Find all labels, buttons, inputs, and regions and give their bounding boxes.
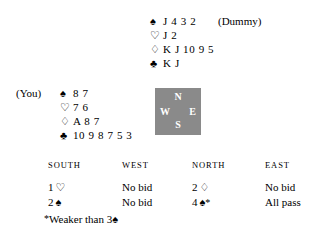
bid-west-2: No bid [122, 195, 152, 210]
you-spade-cards: 8 7 [73, 86, 89, 100]
spade-icon: ♠ [150, 14, 163, 28]
bidding-row: 2♠ No bid 4♠* All pass [0, 195, 318, 210]
bidding-header-row: SOUTH WEST NORTH EAST [0, 158, 318, 180]
club-icon: ♣ [60, 128, 73, 142]
you-suit-row-diamond: ♢ A 8 7 [60, 114, 132, 128]
compass-north: N [155, 92, 201, 102]
you-label: (You) [16, 86, 41, 100]
bid-level: 2 [192, 181, 198, 193]
bid-east-1: No bid [265, 180, 295, 195]
bid-north-1: 2♢ [192, 180, 209, 195]
bidding-header-north: NORTH [192, 158, 225, 173]
dummy-club-cards: K J [163, 56, 180, 70]
dummy-suit-row-spade: ♠ J 4 3 2 [150, 14, 214, 28]
footnote-text: Weaker than 3 [49, 213, 112, 225]
bridge-hand-diagram: (Dummy) ♠ J 4 3 2 ♡ J 2 ♢ K J 10 9 5 ♣ K… [0, 0, 318, 237]
compass-south: S [155, 120, 201, 130]
dummy-heart-cards: J 2 [163, 28, 177, 42]
you-suit-row-spade: ♠ 8 7 [60, 86, 132, 100]
bidding-header-south: SOUTH [48, 158, 81, 173]
your-hand: ♠ 8 7 ♡ 7 6 ♢ A 8 7 ♣ 10 9 8 7 5 3 [60, 86, 132, 142]
bidding-header-west: WEST [122, 158, 149, 173]
you-diamond-cards: A 8 7 [73, 114, 100, 128]
spade-icon: ♠ [54, 196, 62, 208]
bid-east-2: All pass [265, 195, 301, 210]
compass-east: E [189, 107, 196, 117]
dummy-suit-row-diamond: ♢ K J 10 9 5 [150, 42, 214, 56]
bid-level: 1 [48, 181, 54, 193]
bidding-row: 1♡ No bid 2♢ No bid [0, 180, 318, 195]
dummy-label: (Dummy) [218, 14, 261, 28]
spade-icon: ♠ [112, 213, 118, 225]
compass-box: N W E S [155, 88, 201, 135]
footnote-marker: * [205, 197, 210, 208]
bidding-table: SOUTH WEST NORTH EAST 1♡ No bid 2♢ No bi… [0, 158, 318, 210]
dummy-hand: ♠ J 4 3 2 ♡ J 2 ♢ K J 10 9 5 ♣ K J [150, 14, 214, 70]
diamond-icon: ♢ [198, 181, 210, 193]
you-suit-row-club: ♣ 10 9 8 7 5 3 [60, 128, 132, 142]
heart-icon: ♡ [60, 100, 73, 114]
club-icon: ♣ [150, 56, 163, 70]
bid-south-1: 1♡ [48, 180, 65, 195]
dummy-suit-row-club: ♣ K J [150, 56, 214, 70]
diamond-icon: ♢ [60, 114, 73, 128]
dummy-spade-cards: J 4 3 2 [163, 14, 196, 28]
bid-level: 2 [48, 196, 54, 208]
spade-icon: ♠ [60, 86, 73, 100]
bid-south-2: 2♠ [48, 195, 61, 210]
bidding-header-east: EAST [265, 158, 290, 173]
bid-north-2: 4♠* [192, 195, 210, 210]
heart-icon: ♡ [150, 28, 163, 42]
you-heart-cards: 7 6 [73, 100, 89, 114]
bid-level: 4 [192, 196, 198, 208]
footnote: *Weaker than 3♠ [44, 212, 118, 226]
dummy-diamond-cards: K J 10 9 5 [163, 42, 214, 56]
you-suit-row-heart: ♡ 7 6 [60, 100, 132, 114]
dummy-suit-row-heart: ♡ J 2 [150, 28, 214, 42]
bid-west-1: No bid [122, 180, 152, 195]
diamond-icon: ♢ [150, 42, 163, 56]
heart-icon: ♡ [54, 181, 66, 193]
you-club-cards: 10 9 8 7 5 3 [73, 128, 132, 142]
compass-west: W [160, 107, 170, 117]
